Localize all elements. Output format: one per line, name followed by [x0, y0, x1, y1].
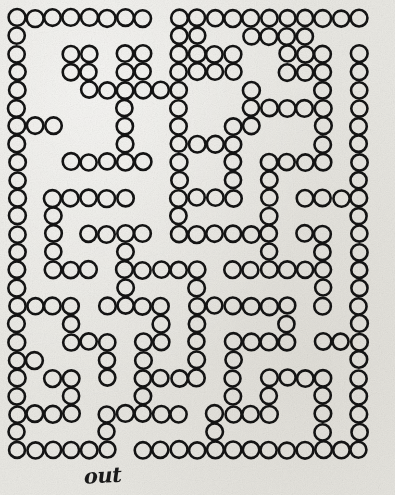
maze-dot — [117, 244, 134, 261]
maze-dot — [62, 9, 79, 26]
maze-dot — [153, 316, 170, 333]
maze-dot — [45, 207, 62, 224]
maze-dot — [280, 10, 296, 26]
maze-dot — [10, 244, 26, 260]
maze-dot — [63, 262, 79, 278]
maze-dot — [350, 190, 367, 207]
maze-dot — [134, 10, 151, 27]
maze-dot — [351, 424, 367, 440]
maze-dot — [297, 65, 313, 81]
maze-dot — [117, 136, 134, 153]
maze-dot — [297, 442, 314, 459]
maze-dot — [171, 262, 187, 278]
maze-dot — [135, 388, 151, 404]
maze-dot — [351, 334, 368, 351]
maze-dot — [188, 333, 204, 349]
maze-dot — [45, 117, 61, 133]
maze-dot — [153, 334, 169, 350]
maze-dot — [279, 64, 296, 81]
maze-dot — [188, 280, 205, 297]
maze-dot — [171, 370, 187, 386]
maze-dot — [135, 406, 151, 422]
maze-dot — [315, 279, 331, 295]
maze-dot — [314, 226, 331, 243]
maze-dot — [224, 261, 241, 278]
maze-dot — [225, 388, 241, 404]
maze-dot — [314, 46, 331, 63]
maze-dot — [171, 82, 187, 98]
maze-dot — [80, 226, 96, 242]
maze-dot — [9, 117, 26, 134]
maze-dot — [171, 136, 187, 152]
maze-dot — [206, 46, 222, 62]
maze-dot — [45, 261, 62, 278]
maze-dot — [243, 442, 259, 458]
maze-dot — [9, 352, 25, 368]
maze-dot — [99, 10, 116, 27]
maze-dot — [98, 190, 115, 207]
maze-dot — [63, 46, 79, 62]
maze-dot — [27, 117, 43, 133]
maze-dot — [189, 28, 205, 44]
maze-dot — [189, 261, 206, 278]
maze-dot — [206, 298, 222, 314]
maze-dot — [225, 352, 241, 368]
maze-dot — [314, 244, 330, 260]
maze-dot — [44, 9, 61, 26]
maze-dot — [280, 45, 296, 61]
out-label: out — [83, 460, 154, 494]
maze-dot — [8, 136, 25, 153]
maze-dot — [170, 406, 186, 422]
maze-dot — [118, 298, 134, 314]
maze-dot — [350, 388, 367, 405]
maze-dot — [135, 45, 151, 61]
maze-dot — [63, 370, 79, 386]
maze-dot — [225, 190, 241, 206]
maze-dot — [99, 298, 116, 315]
maze-dot — [225, 333, 242, 350]
maze-dot — [9, 82, 25, 98]
maze-dot — [63, 153, 80, 170]
maze-dot — [297, 262, 313, 278]
maze-dot — [9, 442, 25, 458]
maze-dot — [225, 371, 241, 387]
maze-dot — [243, 28, 259, 44]
maze-dot — [135, 334, 152, 351]
maze-dot — [243, 298, 260, 315]
maze-dot — [171, 28, 187, 44]
maze-dot — [117, 225, 133, 241]
maze-dot — [206, 225, 222, 241]
maze-dot — [296, 100, 313, 117]
maze-dot — [351, 64, 368, 81]
maze-dot — [261, 261, 277, 277]
maze-dot — [261, 172, 277, 188]
maze-dot — [45, 442, 61, 458]
maze-dot — [315, 64, 331, 80]
maze-dot — [44, 298, 61, 315]
maze-dot — [242, 406, 258, 422]
maze-dot — [314, 298, 331, 315]
maze-dot — [206, 405, 223, 422]
maze-dot — [63, 388, 79, 404]
maze-dot — [261, 10, 277, 26]
maze-dot — [152, 370, 168, 386]
maze-dot — [225, 298, 242, 315]
maze-dot — [207, 64, 223, 80]
maze-dot — [333, 442, 349, 458]
maze-dot — [189, 136, 205, 152]
maze-dot — [9, 227, 25, 243]
maze-dot — [314, 136, 330, 152]
maze-dot — [44, 190, 61, 207]
maze-dot — [333, 334, 349, 350]
maze-dot — [99, 424, 115, 440]
maze-dot — [81, 155, 97, 171]
maze-dot — [261, 154, 277, 170]
maze-dot — [45, 244, 61, 260]
maze-dot — [171, 172, 188, 189]
maze-dot — [261, 208, 278, 225]
maze-dot — [242, 262, 258, 278]
maze-dot — [189, 63, 206, 80]
maze-dot — [9, 261, 26, 278]
maze-dot — [350, 135, 367, 152]
maze-dot — [9, 207, 26, 224]
